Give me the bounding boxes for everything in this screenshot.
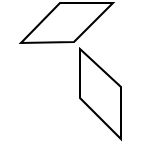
background (0, 0, 152, 164)
diagram-canvas (0, 0, 152, 164)
figure-svg (0, 0, 152, 164)
